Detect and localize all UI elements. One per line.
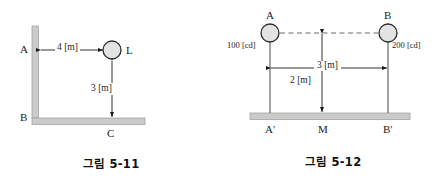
label-distance-3m: 3 [m]: [89, 83, 114, 95]
label-point-a: A: [20, 44, 28, 55]
label-lamp-b: B: [384, 10, 391, 21]
label-foot-a: A′: [265, 124, 275, 135]
figure-5-12-caption: 그림 5-12: [222, 153, 444, 169]
label-lamp-a: A: [266, 10, 274, 21]
label-lamp-l: L: [126, 45, 133, 56]
figure-5-11-caption: 그림 5-11: [0, 155, 222, 171]
label-midpoint-m: M: [318, 124, 328, 135]
label-foot-b: B′: [383, 124, 393, 135]
figure-sheet: A B C L 4 [m] 3 [m] 그림 5-11: [0, 0, 444, 184]
label-point-c: C: [107, 128, 114, 139]
lamp-icon: [103, 41, 121, 59]
label-span-3m: 3 [m]: [314, 61, 341, 71]
wall-shape: [32, 26, 39, 118]
lamp-a-icon: [261, 24, 279, 42]
label-distance-4m: 4 [m]: [55, 43, 80, 53]
figure-5-11: A B C L 4 [m] 3 [m] 그림 5-11: [0, 0, 222, 184]
label-intensity-b: 200 [cd]: [392, 41, 421, 50]
ground-shape: [250, 113, 410, 120]
label-height-2m: 2 [m]: [288, 75, 313, 87]
figure-5-12-drawing: [222, 0, 444, 150]
label-point-b: B: [20, 112, 27, 123]
floor-shape: [32, 118, 145, 125]
figure-5-12: A B 100 [cd] 200 [cd] 3 [m] 2 [m] A′ M B…: [222, 0, 444, 184]
label-intensity-a: 100 [cd]: [227, 41, 256, 50]
